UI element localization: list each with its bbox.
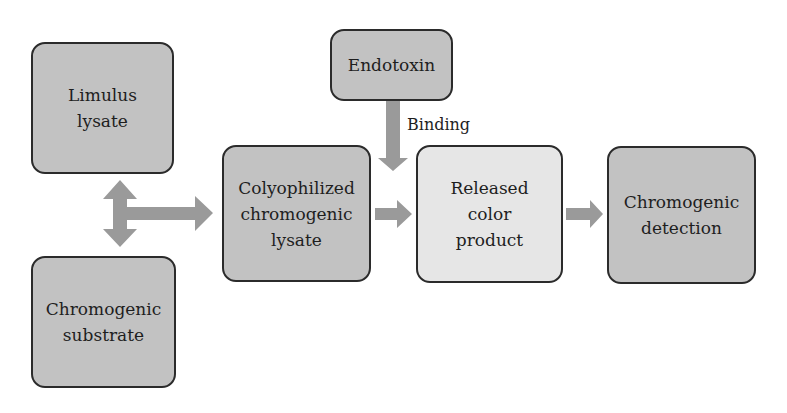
node-released-color-product: Released color product [416, 145, 563, 283]
node-label: Chromogenic detection [624, 189, 740, 241]
node-endotoxin: Endotoxin [330, 29, 453, 101]
node-label: Chromogenic substrate [46, 296, 162, 348]
node-colyophilized-lysate: Colyophilized chromogenic lysate [222, 145, 371, 282]
arrow-to-released [375, 200, 412, 228]
node-label: Colyophilized chromogenic lysate [238, 175, 355, 253]
node-label: Released color product [450, 175, 528, 253]
edge-label-binding: Binding [407, 115, 470, 134]
arrow-to-detection [566, 200, 603, 228]
node-label: Endotoxin [348, 52, 436, 78]
arrow-to-colyophilized [127, 196, 213, 231]
arrow-binding-down [378, 101, 408, 171]
node-limulus-lysate: Limulus lysate [31, 42, 174, 174]
node-chromogenic-detection: Chromogenic detection [607, 146, 756, 284]
node-label: Limulus lysate [68, 82, 137, 134]
node-chromogenic-substrate: Chromogenic substrate [31, 256, 176, 388]
